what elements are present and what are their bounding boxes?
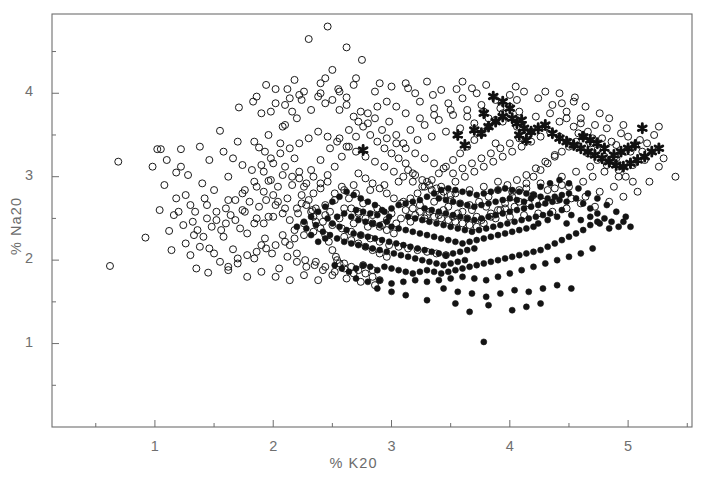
scatter-plot-figure: 12345 1234 % K20 % Na20 [0,0,707,487]
x-axis-title: % K20 [0,455,707,471]
plot-canvas [0,0,707,487]
x-tick-label: 3 [377,438,407,454]
x-tick-label: 5 [613,438,643,454]
y-tick-label: 4 [14,83,44,99]
y-tick-label: 1 [14,334,44,350]
x-tick-label: 2 [258,438,288,454]
y-axis-title: % Na20 [8,166,24,286]
series-stars [359,92,663,171]
x-tick-label: 4 [495,438,525,454]
x-tick-label: 1 [140,438,170,454]
